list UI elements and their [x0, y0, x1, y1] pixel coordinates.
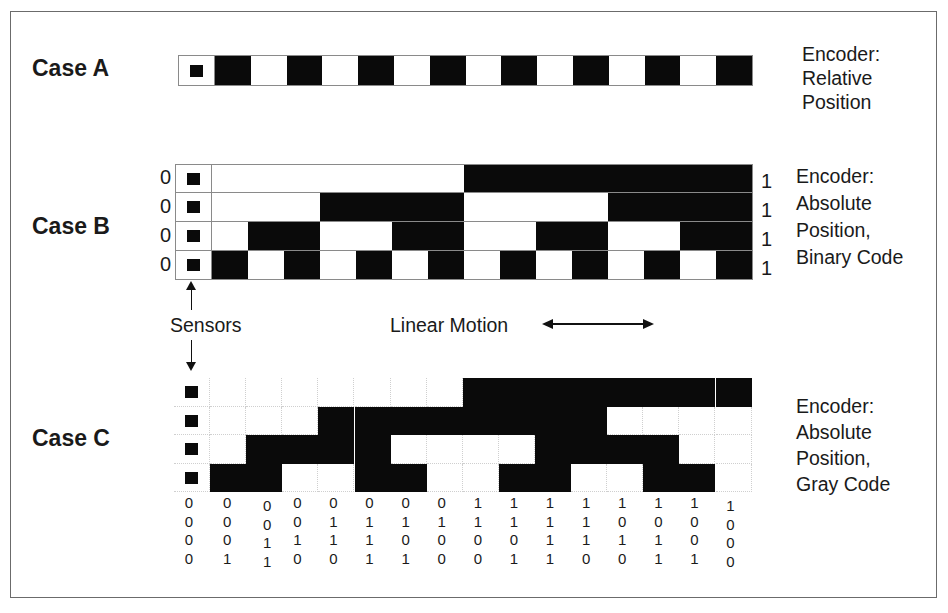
black-segment — [430, 56, 466, 85]
black-segment — [716, 193, 752, 221]
black-segment — [716, 251, 752, 279]
black-segment — [215, 56, 251, 85]
white-segment — [210, 378, 246, 407]
black-segment — [355, 435, 391, 464]
code-digit: 1 — [399, 550, 413, 567]
black-segment — [680, 193, 716, 221]
desc-line: Encoder: — [796, 393, 890, 419]
white-segment — [320, 222, 356, 250]
black-segment — [643, 435, 679, 464]
black-segment — [607, 378, 643, 407]
sensor-icon — [185, 472, 198, 484]
white-segment — [320, 165, 356, 192]
code-digit: 1 — [363, 550, 377, 567]
code-digit: 0 — [615, 513, 629, 530]
code-digit: 0 — [290, 513, 304, 530]
white-segment — [212, 193, 248, 221]
black-segment — [644, 251, 680, 279]
white-segment — [537, 56, 573, 85]
black-segment — [535, 464, 571, 493]
code-digit: 1 — [290, 531, 304, 548]
white-segment — [174, 407, 210, 436]
black-segment — [643, 378, 679, 407]
code-digit: 0 — [399, 531, 413, 548]
code-digit: 1 — [471, 494, 485, 511]
black-segment — [572, 222, 608, 250]
white-segment — [318, 464, 354, 493]
code-digit: 0 — [182, 513, 196, 530]
arrow-line — [191, 340, 192, 364]
arrow-right-icon — [643, 319, 654, 329]
white-segment — [607, 464, 643, 493]
code-digit: 1 — [651, 531, 665, 548]
code-digit: 0 — [579, 550, 593, 567]
arrow-line — [191, 289, 192, 310]
code-digit: 0 — [687, 513, 701, 530]
white-segment — [536, 251, 572, 279]
code-digit: 1 — [507, 513, 521, 530]
black-segment — [428, 251, 464, 279]
white-segment — [355, 378, 391, 407]
code-digit: 0 — [182, 494, 196, 511]
white-segment — [608, 222, 644, 250]
white-segment — [322, 56, 358, 85]
white-segment — [210, 435, 246, 464]
black-segment — [284, 251, 320, 279]
case-b-description: Encoder: Absolute Position, Binary Code — [796, 163, 903, 271]
code-digit: 0 — [220, 513, 234, 530]
code-digit: 1 — [579, 531, 593, 548]
white-segment — [392, 165, 428, 192]
code-digit: 1 — [363, 513, 377, 530]
desc-line: Gray Code — [796, 471, 890, 497]
desc-line: Absolute — [796, 419, 890, 445]
black-segment — [320, 193, 356, 221]
code-digit: 1 — [435, 513, 449, 530]
black-segment — [355, 407, 391, 436]
code-digit: 1 — [543, 494, 557, 511]
code-digit: 0 — [399, 494, 413, 511]
sensor-icon — [187, 259, 200, 271]
white-segment — [609, 56, 645, 85]
white-segment — [464, 222, 500, 250]
white-segment — [427, 464, 463, 493]
desc-line: Encoder: — [796, 163, 903, 190]
white-segment — [318, 378, 354, 407]
desc-line: Encoder: — [802, 42, 880, 66]
white-segment — [391, 435, 427, 464]
white-segment — [464, 193, 500, 221]
code-digit: 0 — [326, 550, 340, 567]
code-digit: 0 — [260, 516, 274, 533]
code-digit: 0 — [471, 531, 485, 548]
black-segment — [428, 193, 464, 221]
black-segment — [248, 222, 284, 250]
white-segment — [391, 378, 427, 407]
black-segment — [428, 222, 464, 250]
white-segment — [466, 56, 502, 85]
white-segment — [356, 165, 392, 192]
white-segment — [392, 251, 428, 279]
white-segment — [463, 435, 499, 464]
sensor-cell — [176, 222, 212, 250]
white-segment — [464, 251, 500, 279]
white-segment — [246, 407, 282, 436]
white-segment — [607, 407, 643, 436]
black-segment — [391, 407, 427, 436]
code-track — [175, 222, 753, 251]
bit-label-right: 1 — [761, 170, 772, 193]
black-segment — [500, 251, 536, 279]
desc-line: Binary Code — [796, 244, 903, 271]
code-digit: 0 — [435, 494, 449, 511]
arrow-line — [550, 323, 645, 325]
white-segment — [716, 435, 752, 464]
black-segment — [358, 56, 394, 85]
code-digit: 0 — [182, 550, 196, 567]
black-segment — [573, 56, 609, 85]
desc-line: Position, — [796, 445, 890, 471]
black-segment — [716, 165, 752, 192]
code-digit: 1 — [724, 497, 738, 514]
black-segment — [287, 56, 323, 85]
black-segment — [463, 407, 499, 436]
black-segment — [608, 193, 644, 221]
black-segment — [643, 464, 679, 493]
white-segment — [463, 464, 499, 493]
